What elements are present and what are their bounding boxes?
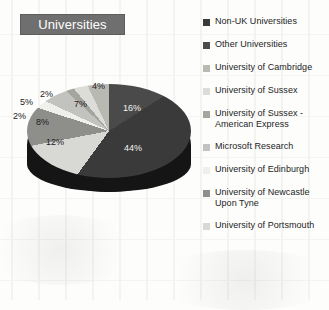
legend-swatch-icon xyxy=(203,167,210,174)
slice-label-8: 8% xyxy=(36,118,49,127)
slice-label-16: 16% xyxy=(123,104,141,113)
legend-item-label: University of Edinburgh xyxy=(215,164,309,175)
legend-item-label: University of Portsmouth xyxy=(215,220,314,231)
legend-swatch-icon xyxy=(203,144,210,151)
legend-item[interactable]: Non-UK Universities xyxy=(203,16,329,28)
legend-item-label: University of Sussex xyxy=(215,85,298,96)
legend-swatch-icon xyxy=(203,65,210,72)
legend-swatch-icon xyxy=(203,42,210,49)
slice-label-2b: 2% xyxy=(40,90,53,99)
pie-chart: 44% 16% 12% 8% 2% 5% 2% 4% 7% xyxy=(0,60,196,205)
chart-legend: Non-UK Universities Other Universities U… xyxy=(203,16,329,243)
slice-label-4: 4% xyxy=(92,82,105,91)
scan-blotch xyxy=(150,250,329,310)
slice-label-12: 12% xyxy=(46,138,64,147)
legend-swatch-icon xyxy=(203,88,210,95)
slice-label-2a: 2% xyxy=(13,112,26,121)
slice-label-5: 5% xyxy=(20,98,33,107)
legend-item[interactable]: Other Universities xyxy=(203,39,329,51)
legend-swatch-icon xyxy=(203,190,210,197)
legend-item-label: University of Cambridge xyxy=(215,62,312,73)
legend-item[interactable]: University of Sussex xyxy=(203,85,329,97)
legend-item[interactable]: University of Portsmouth xyxy=(203,220,329,232)
chart-title-badge: Universities xyxy=(20,14,125,35)
page-title: Universities xyxy=(38,18,106,31)
legend-item-label: University of Newcastle Upon Tyne xyxy=(215,187,329,209)
legend-swatch-icon xyxy=(203,19,210,26)
legend-swatch-icon xyxy=(203,111,210,118)
legend-item-label: Other Universities xyxy=(215,39,287,50)
legend-item[interactable]: University of Edinburgh xyxy=(203,164,329,176)
legend-item-label: Non-UK Universities xyxy=(215,16,297,27)
slice-label-7: 7% xyxy=(74,100,87,109)
legend-item[interactable]: University of Cambridge xyxy=(203,62,329,74)
legend-item[interactable]: University of Newcastle Upon Tyne xyxy=(203,187,329,209)
scan-blotch xyxy=(0,215,140,285)
slice-label-44: 44% xyxy=(124,144,142,153)
legend-item-label: University of Sussex - American Express xyxy=(215,108,329,130)
legend-item[interactable]: University of Sussex - American Express xyxy=(203,108,329,130)
legend-item-label: Microsoft Research xyxy=(215,141,293,152)
legend-item[interactable]: Microsoft Research xyxy=(203,141,329,153)
legend-swatch-icon xyxy=(203,223,210,230)
